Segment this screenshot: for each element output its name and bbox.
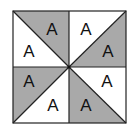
label-br-shaded: A	[80, 96, 92, 115]
pinwheel-diagram: A A A A A A A A	[0, 0, 135, 136]
label-tr-shaded: A	[102, 42, 114, 61]
label-tl-shaded: A	[46, 20, 58, 39]
label-br-white: A	[101, 72, 113, 91]
label-bl-shaded: A	[23, 72, 35, 91]
label-tl-white: A	[23, 42, 35, 61]
label-bl-white: A	[47, 96, 59, 115]
label-tr-white: A	[80, 20, 92, 39]
center-point	[67, 65, 70, 68]
